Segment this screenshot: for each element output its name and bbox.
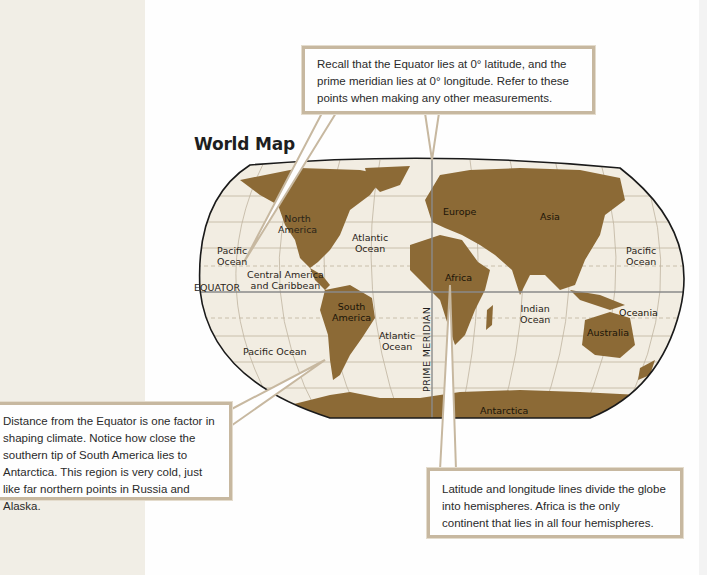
label-atlantic-ocean-north: Atlantic Ocean xyxy=(352,232,388,254)
label-antarctica: Antarctica xyxy=(480,405,528,416)
callout-text: Distance from the Equator is one factor … xyxy=(3,415,215,512)
label-central-america: Central America and Caribbean xyxy=(247,269,324,291)
label-africa: Africa xyxy=(445,272,472,283)
label-oceania: Oceania xyxy=(619,307,658,318)
label-asia: Asia xyxy=(540,211,560,222)
label-pacific-ocean-southwest: Pacific Ocean xyxy=(243,346,307,357)
callout-equator-meridian: Recall that the Equator lies at 0° latit… xyxy=(302,46,595,114)
label-prime-meridian: PRIME MERIDIAN xyxy=(421,307,432,392)
label-europe: Europe xyxy=(443,206,476,217)
label-pacific-ocean-northwest: Pacific Ocean xyxy=(217,245,247,267)
callout-text: Recall that the Equator lies at 0° latit… xyxy=(317,58,569,104)
label-atlantic-ocean-south: Atlantic Ocean xyxy=(379,330,415,352)
label-equator: EQUATOR xyxy=(194,282,240,293)
callout-text: Latitude and longitude lines divide the … xyxy=(442,483,666,529)
label-south-america: South America xyxy=(332,301,371,323)
label-australia: Australia xyxy=(587,327,629,338)
label-pacific-ocean-east: Pacific Ocean xyxy=(626,245,656,267)
callout-hemispheres: Latitude and longitude lines divide the … xyxy=(427,468,683,538)
label-north-america: North America xyxy=(278,213,317,235)
callout-climate: Distance from the Equator is one factor … xyxy=(0,402,232,500)
label-indian-ocean: Indian Ocean xyxy=(520,303,550,325)
